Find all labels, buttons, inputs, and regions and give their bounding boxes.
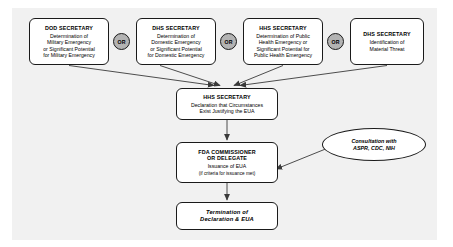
node-dod-secretary-title: DOD SECRETARY [45, 25, 93, 32]
node-hhs-secretary-public-health[interactable]: HHS SECRETARY Determination of Public He… [243, 18, 323, 65]
node-dhs-secretary-material-threat-title: DHS SECRETARY [363, 31, 410, 38]
node-dod-secretary[interactable]: DOD SECRETARY Determination of Military … [29, 18, 109, 65]
or-connector-2: OR [220, 33, 237, 50]
node-fda-commissioner-body: Issuance of EUA [208, 163, 247, 169]
node-dhs-secretary-material-threat[interactable]: DHS SECRETARY Identification of Material… [350, 18, 424, 65]
node-dod-secretary-body: Determination of Military Emergency or S… [43, 33, 95, 58]
eua-process-flowchart: DOD SECRETARY Determination of Military … [0, 0, 453, 247]
node-fda-commissioner[interactable]: FDA COMMISSIONER OR DELEGATE Issuance of… [176, 142, 278, 183]
node-hhs-secretary-public-health-title: HHS SECRETARY [259, 25, 306, 32]
or-connector-1: OR [113, 33, 130, 50]
node-hhs-declaration-body: Declaration that Circumstances Exist Jus… [191, 102, 263, 115]
node-dhs-secretary-domestic-title: DHS SECRETARY [152, 25, 199, 32]
node-consultation-body: Consultation with ASPR, CDC, NIH [351, 138, 396, 152]
node-fda-commissioner-criteria-note: (if criteria for issuance met) [199, 171, 256, 177]
node-hhs-declaration-title: HHS SECRETARY [203, 94, 250, 101]
node-dhs-secretary-domestic-body: Determination of Domestic Emergency or S… [148, 33, 205, 58]
node-dhs-secretary-material-threat-body: Identification of Material Threat [370, 39, 405, 52]
node-dhs-secretary-domestic[interactable]: DHS SECRETARY Determination of Domestic … [136, 18, 216, 65]
node-consultation[interactable]: Consultation with ASPR, CDC, NIH [322, 128, 426, 161]
node-termination[interactable]: Termination of Declaration & EUA [176, 202, 278, 230]
node-termination-title: Termination of Declaration & EUA [200, 209, 254, 223]
node-hhs-secretary-public-health-body: Determination of Public Health Emergency… [254, 33, 312, 58]
or-connector-3: OR [327, 33, 344, 50]
node-hhs-declaration[interactable]: HHS SECRETARY Declaration that Circumsta… [176, 88, 278, 120]
node-fda-commissioner-title: FDA COMMISSIONER OR DELEGATE [198, 149, 256, 162]
